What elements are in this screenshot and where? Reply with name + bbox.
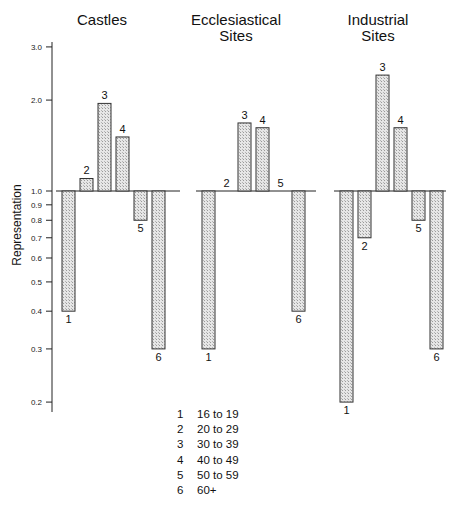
bar	[376, 75, 389, 191]
bar	[80, 178, 93, 191]
bar-label: 1	[205, 351, 211, 363]
legend-item: 550 to 59	[177, 468, 239, 483]
bar-label: 2	[83, 164, 89, 176]
bar	[202, 191, 215, 349]
panel-title: Sites	[361, 27, 394, 44]
y-tick-label: 0.3	[31, 345, 43, 354]
legend-item: 220 to 29	[177, 422, 239, 437]
panel-castles: Castles123456	[56, 11, 180, 363]
legend-item: 440 to 49	[177, 453, 239, 468]
panel-title: Sites	[219, 27, 252, 44]
bar-label: 6	[295, 313, 301, 325]
y-axis: 0.20.30.40.50.60.70.80.91.02.03.0Represe…	[10, 42, 52, 412]
bar-label: 2	[223, 177, 229, 189]
bar	[152, 191, 165, 349]
bar	[292, 191, 305, 311]
panel-industrial-sites: IndustrialSites123456	[334, 11, 446, 416]
bar-label: 6	[155, 351, 161, 363]
bar-label: 2	[361, 240, 367, 252]
bar-label: 6	[433, 351, 439, 363]
bar-label: 1	[343, 404, 349, 416]
legend-label: 40 to 49	[197, 453, 239, 468]
bar-label: 4	[259, 114, 265, 126]
legend-number: 1	[177, 407, 197, 422]
legend-item: 660+	[177, 483, 239, 498]
legend-number: 2	[177, 422, 197, 437]
panel-title: Castles	[77, 11, 127, 28]
bar	[358, 191, 371, 238]
bar-label: 5	[137, 222, 143, 234]
panel-title: Ecclesiastical	[191, 11, 281, 28]
legend-label: 20 to 29	[197, 422, 239, 437]
bar-label: 1	[65, 313, 71, 325]
y-tick-label: 0.7	[31, 234, 43, 243]
legend-item: 116 to 19	[177, 407, 239, 422]
y-axis-label: Representation	[10, 184, 24, 265]
bar	[430, 191, 443, 349]
y-tick-label: 2.0	[31, 96, 43, 105]
bar-label: 3	[101, 89, 107, 101]
y-tick-label: 0.2	[31, 398, 43, 407]
panel-ecclesiastical-sites: EcclesiasticalSites123456	[191, 11, 316, 363]
bar-label: 5	[415, 222, 421, 234]
y-tick-label: 0.5	[31, 278, 43, 287]
bar	[116, 137, 129, 191]
bar	[62, 191, 75, 311]
bar	[98, 103, 111, 191]
y-tick-label: 0.4	[31, 307, 43, 316]
bar	[394, 128, 407, 191]
y-tick-label: 1.0	[31, 187, 43, 196]
bar-label: 4	[119, 123, 125, 135]
bar	[412, 191, 425, 220]
legend-label: 16 to 19	[197, 407, 239, 422]
bar	[256, 128, 269, 191]
bar	[134, 191, 147, 220]
y-tick-label: 0.6	[31, 254, 43, 263]
bar-label: 5	[277, 177, 283, 189]
chart-panels: Castles123456EcclesiasticalSites123456In…	[56, 11, 446, 416]
legend-number: 6	[177, 483, 197, 498]
legend: 116 to 19220 to 29330 to 39440 to 49550 …	[177, 407, 239, 498]
bar	[340, 191, 353, 402]
legend-number: 4	[177, 453, 197, 468]
bar	[238, 123, 251, 191]
bar-label: 3	[379, 61, 385, 73]
y-tick-label: 0.9	[31, 201, 43, 210]
bar-label: 3	[241, 109, 247, 121]
legend-number: 3	[177, 437, 197, 452]
y-tick-label: 0.8	[31, 216, 43, 225]
legend-label: 50 to 59	[197, 468, 239, 483]
bar-label: 4	[397, 114, 403, 126]
panel-title: Industrial	[348, 11, 409, 28]
legend-item: 330 to 39	[177, 437, 239, 452]
y-tick-label: 3.0	[31, 43, 43, 52]
legend-label: 30 to 39	[197, 437, 239, 452]
legend-number: 5	[177, 468, 197, 483]
legend-label: 60+	[197, 483, 217, 498]
